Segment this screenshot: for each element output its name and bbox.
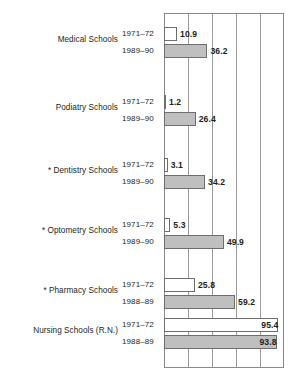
gridline-40 xyxy=(212,14,213,367)
year-tick-label: 1971–72 xyxy=(122,160,160,170)
bar xyxy=(164,27,177,41)
bar xyxy=(164,175,205,189)
bar-value-label: 5.3 xyxy=(170,218,185,232)
category-label: * Optometry Schools xyxy=(0,226,118,236)
bar xyxy=(164,112,196,126)
year-tick-label: 1989–90 xyxy=(122,46,160,56)
category-label: Podiatry Schools xyxy=(0,103,118,113)
bar-value-label: 25.8 xyxy=(195,278,215,292)
year-tick-label: 1988–89 xyxy=(122,297,160,307)
bar-value-label: 93.8 xyxy=(164,335,281,349)
year-tick-label: 1989–90 xyxy=(122,237,160,247)
bar-value-label: 49.9 xyxy=(224,235,244,249)
plot-area xyxy=(164,13,284,368)
bar xyxy=(164,235,224,249)
category-label: * Dentistry Schools xyxy=(0,166,118,176)
category-name-text: Medical Schools xyxy=(58,35,118,44)
bar xyxy=(164,278,195,292)
year-tick-label: 1971–72 xyxy=(122,320,160,330)
bar-value-label: 10.9 xyxy=(177,27,197,41)
category-name-text: Nursing Schools (R.N.) xyxy=(33,326,118,335)
bar-value-label: 3.1 xyxy=(168,158,183,172)
year-tick-label: 1989–90 xyxy=(122,177,160,187)
year-tick-label: 1971–72 xyxy=(122,280,160,290)
bar xyxy=(164,295,235,309)
category-name-text: Pharmacy Schools xyxy=(49,286,118,295)
category-name-text: Optometry Schools xyxy=(48,226,118,235)
bar-value-label: 36.2 xyxy=(207,44,227,58)
bar-value-label: 26.4 xyxy=(196,112,216,126)
category-label: * Pharmacy Schools xyxy=(0,286,118,296)
gridline-60 xyxy=(236,14,237,367)
bar-value-label: 34.2 xyxy=(205,175,225,189)
category-label: Medical Schools xyxy=(0,35,118,45)
category-label: Nursing Schools (R.N.) xyxy=(0,326,118,336)
bar-value-label: 1.2 xyxy=(166,95,181,109)
year-tick-label: 1971–72 xyxy=(122,220,160,230)
horizontal-bar-chart: Medical Schools1971–7210.91989–9036.2Pod… xyxy=(0,0,293,380)
gridline-20 xyxy=(188,14,189,367)
year-tick-label: 1988–89 xyxy=(122,337,160,347)
bar xyxy=(164,44,207,58)
category-name-text: Podiatry Schools xyxy=(56,103,118,112)
category-name-text: Dentistry Schools xyxy=(53,166,118,175)
year-tick-label: 1971–72 xyxy=(122,97,160,107)
year-tick-label: 1971–72 xyxy=(122,29,160,39)
bar-value-label: 95.4 xyxy=(164,318,282,332)
bar-value-label: 59.2 xyxy=(235,295,255,309)
gridline-80 xyxy=(260,14,261,367)
year-tick-label: 1989–90 xyxy=(122,114,160,124)
